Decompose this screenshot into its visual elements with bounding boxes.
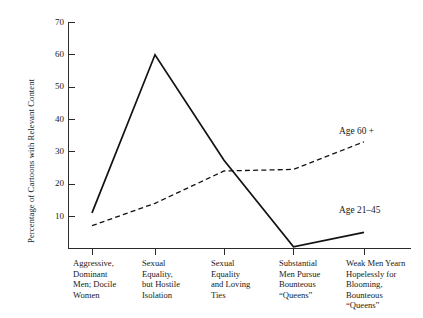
- y-tick-label-50: 50: [55, 81, 65, 91]
- chart-figure: 70 60 50 40 30 20 10 Percentage of Carto…: [0, 0, 423, 318]
- y-tick-label-40: 40: [55, 114, 65, 124]
- x-category-label-0: Aggressive, Dominant Men; Docile Women: [73, 258, 133, 300]
- x-axis-ticks: [93, 249, 365, 256]
- x-category-label-2: Sexual Equality and Loving Ties: [211, 258, 273, 300]
- y-tick-label-10: 10: [55, 211, 65, 221]
- y-axis-tick-labels: 70 60 50 40 30 20 10: [55, 17, 65, 221]
- y-axis-title: Percentage of Cartoons with Relevant Con…: [26, 79, 36, 243]
- x-category-label-1: Sexual Equality, but Hostile Isolation: [142, 258, 202, 300]
- y-tick-label-60: 60: [55, 49, 65, 59]
- series-line-age-60-plus: [92, 142, 364, 226]
- y-axis-ticks: [69, 23, 75, 217]
- x-category-label-3: Substantial Men Pursue Bounteous “Queens…: [279, 258, 343, 300]
- series-annotation-age-21-45: Age 21–45: [339, 205, 380, 215]
- y-tick-label-70: 70: [55, 17, 65, 27]
- y-tick-label-30: 30: [55, 146, 65, 156]
- x-category-label-4: Weak Men Yearn Hopelessly for Blooming, …: [346, 258, 422, 311]
- series-annotation-age-60-plus: Age 60 +: [339, 126, 374, 136]
- series-line-age-21-45: [92, 55, 364, 247]
- y-tick-label-20: 20: [55, 178, 65, 188]
